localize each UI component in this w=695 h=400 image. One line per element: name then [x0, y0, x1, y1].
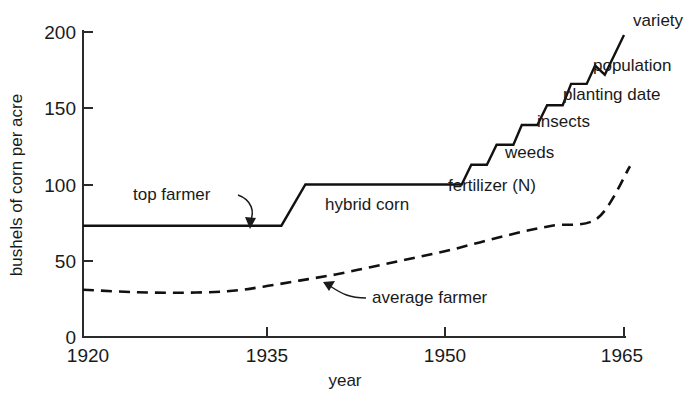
- annotation-top-farmer: top farmer: [133, 185, 211, 204]
- x-tick-label-1935: 1935: [246, 345, 288, 366]
- chart-svg: 200 150 100 50 0 1920 1935 1950 1965 yea…: [0, 0, 695, 400]
- annotation-variety: variety: [633, 11, 684, 30]
- x-tick-label-1920: 1920: [67, 345, 109, 366]
- x-axis-ticks: [267, 327, 624, 337]
- annotation-insects: insects: [537, 112, 590, 131]
- annotation-average-farmer: average farmer: [372, 288, 488, 307]
- annotation-fertilizer: fertilizer (N): [448, 176, 536, 195]
- annotation-population: population: [593, 56, 671, 75]
- y-tick-label-200: 200: [44, 22, 76, 43]
- annotation-weeds: weeds: [504, 143, 554, 162]
- chart-figure: 200 150 100 50 0 1920 1935 1950 1965 yea…: [0, 0, 695, 400]
- y-tick-label-50: 50: [55, 251, 76, 272]
- leader-arrowhead-top-farmer: [245, 217, 256, 229]
- leader-arrowhead-average-farmer: [323, 281, 335, 291]
- annotation-hybrid-corn: hybrid corn: [325, 195, 409, 214]
- y-tick-label-150: 150: [44, 98, 76, 119]
- x-tick-label-1965: 1965: [601, 345, 643, 366]
- leader-average-farmer: [330, 286, 366, 298]
- x-tick-label-1950: 1950: [424, 345, 466, 366]
- y-tick-label-100: 100: [44, 175, 76, 196]
- x-axis-title: year: [328, 371, 361, 390]
- y-axis-title: bushels of corn per acre: [7, 94, 26, 276]
- annotation-planting-date: planting date: [563, 85, 660, 104]
